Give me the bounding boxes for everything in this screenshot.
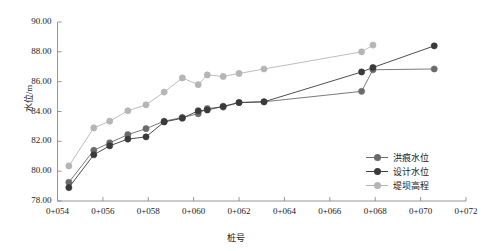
data-point (204, 72, 210, 78)
data-point (66, 184, 72, 190)
chart-figure: 水位/m 桩号 78.0080.0082.0084.0086.0088.0090… (0, 0, 490, 251)
legend-item-label-1: 设计水位 (393, 165, 429, 178)
legend-marker-0 (374, 154, 381, 161)
data-point (236, 99, 242, 105)
data-point (107, 118, 113, 124)
y-tick-label: 88.00 (10, 46, 52, 56)
data-point (91, 125, 97, 131)
x-tick-label: 0+070 (398, 206, 444, 216)
data-point (220, 103, 226, 109)
y-tick-label: 84.00 (10, 106, 52, 116)
chart-legend: 洪痕水位 设计水位 堤坝高程 (366, 150, 429, 192)
y-tick-label: 82.00 (10, 135, 52, 145)
x-tick-label: 0+066 (307, 206, 353, 216)
data-point (359, 88, 365, 94)
data-point (143, 134, 149, 140)
legend-swatch-line-1 (366, 171, 388, 172)
data-point (143, 126, 149, 132)
data-point (370, 42, 376, 48)
y-tick-label: 90.00 (10, 16, 52, 26)
data-point (359, 69, 365, 75)
data-point (431, 66, 437, 72)
x-tick-label: 0+072 (443, 206, 489, 216)
data-point (125, 136, 131, 142)
data-point (195, 108, 201, 114)
data-point (261, 99, 267, 105)
x-tick-label: 0+068 (352, 206, 398, 216)
data-point (370, 64, 376, 70)
x-tick-label: 0+054 (35, 206, 81, 216)
data-point (195, 82, 201, 88)
data-point (261, 66, 267, 72)
data-point (125, 108, 131, 114)
legend-item-0[interactable]: 洪痕水位 (366, 150, 429, 164)
legend-item-1[interactable]: 设计水位 (366, 164, 429, 178)
x-tick-label: 0+060 (171, 206, 217, 216)
legend-swatch-line-0 (366, 157, 388, 158)
legend-item-2[interactable]: 堤坝高程 (366, 178, 429, 192)
x-tick-label: 0+062 (216, 206, 262, 216)
legend-marker-1 (374, 168, 381, 175)
data-point (359, 49, 365, 55)
data-point (204, 107, 210, 113)
x-tick-label: 0+064 (261, 206, 307, 216)
x-tick-label: 0+056 (80, 206, 126, 216)
data-point (220, 73, 226, 79)
data-point (161, 119, 167, 125)
data-point (236, 70, 242, 76)
data-point (143, 102, 149, 108)
y-tick-label: 78.00 (10, 195, 52, 205)
data-point (66, 163, 72, 169)
x-axis-label: 桩号 (227, 231, 245, 244)
legend-marker-2 (374, 182, 381, 189)
data-point (179, 75, 185, 81)
y-tick-label: 80.00 (10, 165, 52, 175)
data-point (179, 115, 185, 121)
x-tick-label: 0+058 (125, 206, 171, 216)
data-point (431, 43, 437, 49)
legend-item-label-0: 洪痕水位 (393, 151, 429, 164)
y-tick-label: 86.00 (10, 76, 52, 86)
data-point (91, 152, 97, 158)
legend-item-label-2: 堤坝高程 (393, 179, 429, 192)
legend-swatch-line-2 (366, 185, 388, 186)
data-point (107, 143, 113, 149)
data-point (161, 89, 167, 95)
